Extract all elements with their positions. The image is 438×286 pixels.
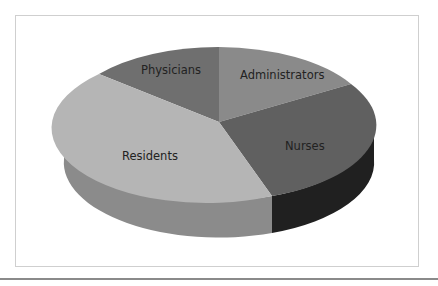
- label-physicians: Physicians: [141, 63, 201, 77]
- label-administrators: Administrators: [240, 68, 324, 82]
- label-nurses: Nurses: [285, 139, 325, 153]
- pie-chart: Physicians Administrators Nurses Residen…: [0, 0, 438, 286]
- pie-top: [52, 47, 377, 203]
- label-residents: Residents: [122, 149, 178, 163]
